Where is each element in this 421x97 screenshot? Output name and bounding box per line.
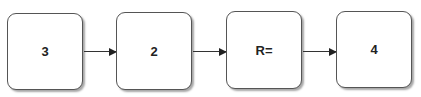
node-label: R= — [256, 43, 273, 58]
flow-node-4: 4 — [336, 11, 412, 88]
arrow-1-to-2 — [84, 51, 116, 52]
flow-node-1: 3 — [7, 13, 83, 90]
arrow-2-to-3 — [193, 51, 226, 52]
flow-node-3: R= — [226, 11, 302, 89]
node-label: 3 — [41, 44, 48, 59]
arrow-3-to-4 — [303, 51, 336, 52]
node-label: 4 — [370, 42, 377, 57]
flow-node-2: 2 — [116, 12, 192, 90]
node-label: 2 — [150, 44, 157, 59]
